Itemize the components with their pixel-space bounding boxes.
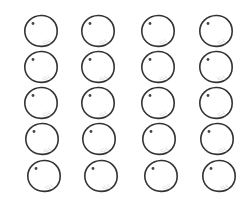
dot-icon	[207, 58, 210, 61]
circle-icon	[83, 159, 119, 193]
dot-icon	[92, 167, 95, 170]
dot-icon	[207, 22, 210, 25]
circle-icon	[80, 14, 116, 48]
circle-item	[140, 50, 176, 84]
circle-item	[23, 50, 59, 84]
circle-icon	[23, 14, 59, 48]
dot-icon	[32, 58, 35, 61]
circle-item	[23, 86, 59, 120]
circle-item	[198, 14, 234, 48]
circle-item	[26, 159, 62, 193]
circle-item	[141, 122, 177, 156]
dot-icon	[32, 22, 35, 25]
dot-icon	[32, 94, 35, 97]
circle-icon	[80, 50, 116, 84]
dot-icon	[152, 167, 155, 170]
circle-icon	[199, 122, 235, 156]
dot-icon	[89, 94, 92, 97]
circle-item	[201, 159, 237, 193]
circle-icon	[140, 86, 176, 120]
dot-icon	[35, 167, 38, 170]
dot-icon	[149, 94, 152, 97]
circle-item	[198, 50, 234, 84]
dot-icon	[33, 130, 36, 133]
dot-icon	[89, 58, 92, 61]
circle-item	[80, 14, 116, 48]
dot-icon	[90, 130, 93, 133]
circle-grid	[0, 0, 246, 199]
circle-icon	[201, 159, 237, 193]
dot-icon	[89, 22, 92, 25]
circle-icon	[81, 122, 117, 156]
circle-item	[80, 50, 116, 84]
circle-icon	[198, 14, 234, 48]
dot-icon	[207, 94, 210, 97]
circle-item	[23, 14, 59, 48]
circle-icon	[141, 122, 177, 156]
dot-icon	[210, 167, 213, 170]
circle-item	[198, 86, 234, 120]
circle-item	[143, 159, 179, 193]
dot-icon	[208, 130, 211, 133]
circle-item	[199, 122, 235, 156]
circle-item	[83, 159, 119, 193]
circle-item	[140, 14, 176, 48]
circle-item	[140, 86, 176, 120]
circle-icon	[23, 50, 59, 84]
dot-icon	[150, 130, 153, 133]
circle-item	[24, 122, 60, 156]
circle-icon	[140, 50, 176, 84]
circle-item	[81, 122, 117, 156]
circle-icon	[24, 122, 60, 156]
dot-icon	[149, 58, 152, 61]
circle-icon	[198, 50, 234, 84]
circle-item	[80, 86, 116, 120]
circle-icon	[23, 86, 59, 120]
circle-icon	[140, 14, 176, 48]
circle-icon	[143, 159, 179, 193]
circle-icon	[80, 86, 116, 120]
dot-icon	[149, 22, 152, 25]
circle-icon	[26, 159, 62, 193]
circle-icon	[198, 86, 234, 120]
